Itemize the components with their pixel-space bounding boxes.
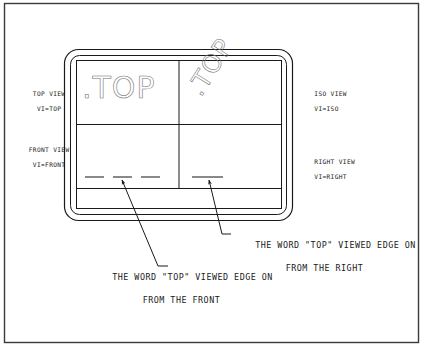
label-top-view-line2: VI=TOP [37, 105, 61, 112]
label-right-view-line1: RIGHT VIEW [314, 158, 355, 165]
label-iso-view-line1: ISO VIEW [314, 90, 347, 97]
label-top-view-line1: TOP VIEW [33, 90, 66, 97]
label-right-view-line2: VI=RIGHT [314, 173, 347, 180]
label-top-view: TOP VIEW VI=TOP [10, 82, 72, 120]
annotation-front: THE WORD "TOP" VIEWED EDGE ON FROM THE F… [90, 260, 273, 329]
annotation-right-line1: THE WORD "TOP" VIEWED EDGE ON [255, 240, 416, 250]
label-iso-view: ISO VIEW VI=ISO [298, 82, 360, 120]
leader-line-front [122, 180, 168, 266]
label-front-view-line2: VI=FRONT [33, 161, 66, 168]
top-view-word: .TOP [82, 70, 156, 105]
label-right-view: RIGHT VIEW VI=RIGHT [298, 150, 366, 188]
diagram-page: .TOP .TOP TOP VIEW VI=TOP FRONT VIEW VI=… [0, 0, 424, 349]
annotation-front-line2: FROM THE FRONT [90, 295, 273, 307]
annotation-front-line1: THE WORD "TOP" VIEWED EDGE ON [112, 272, 273, 282]
label-iso-view-line2: VI=ISO [314, 105, 338, 112]
label-front-view: FRONT VIEW VI=FRONT [7, 138, 75, 176]
label-front-view-line1: FRONT VIEW [29, 146, 70, 153]
